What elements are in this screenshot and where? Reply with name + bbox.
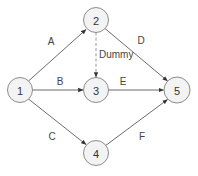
network-diagram: A B C D E F Dummy 1 2 3 4 5	[0, 0, 198, 176]
edge-label-f: F	[139, 131, 145, 142]
edge-label-b: B	[57, 76, 64, 87]
node-label-1: 1	[17, 85, 23, 97]
node-3: 3	[84, 78, 109, 103]
edge-label-dummy: Dummy	[99, 49, 133, 60]
node-label-4: 4	[93, 148, 99, 160]
edge-label-d: D	[137, 35, 144, 46]
node-label-2: 2	[93, 15, 99, 27]
node-label-3: 3	[93, 85, 99, 97]
node-2: 2	[84, 8, 109, 33]
edge-c	[29, 99, 87, 145]
edge-a	[29, 30, 87, 82]
node-5: 5	[164, 77, 190, 103]
edge-label-c: C	[48, 131, 55, 142]
node-1: 1	[8, 78, 33, 103]
edge-label-e: E	[120, 76, 127, 87]
node-4: 4	[84, 141, 109, 166]
edge-f	[105, 100, 168, 147]
node-label-5: 5	[174, 85, 180, 97]
edge-label-a: A	[48, 36, 55, 47]
